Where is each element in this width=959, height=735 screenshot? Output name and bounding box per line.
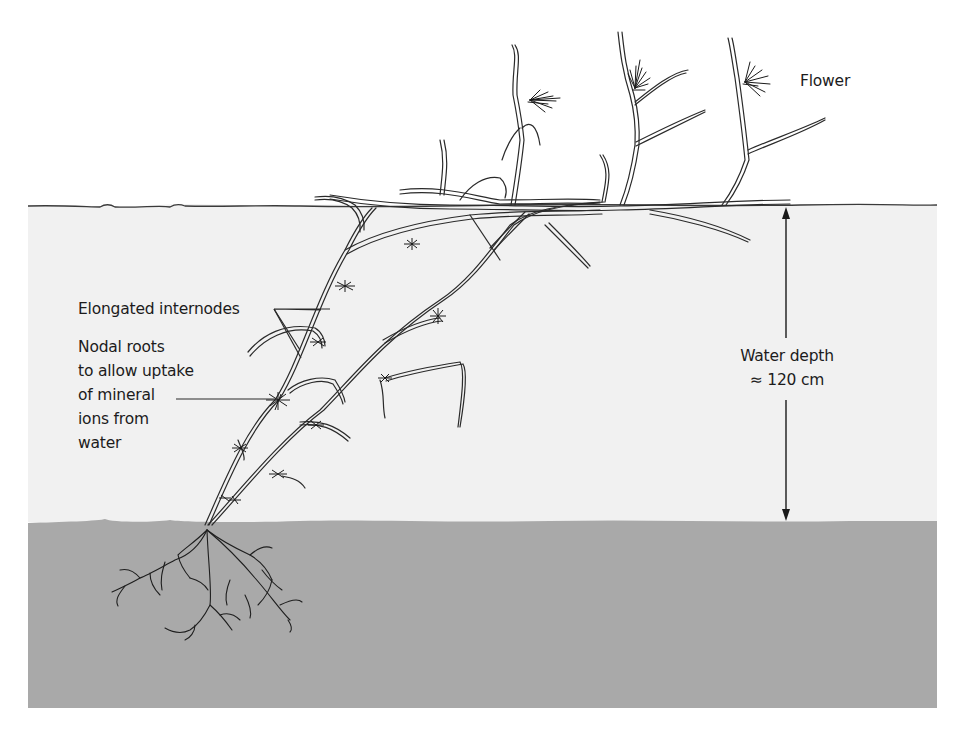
internodes-label: Elongated internodes xyxy=(78,297,240,321)
flower-1 xyxy=(528,90,560,112)
flower-label: Flower xyxy=(800,69,850,93)
water-depth-label: Water depth ≈ 120 cm xyxy=(722,344,852,392)
water-depth-line2: ≈ 120 cm xyxy=(722,368,852,392)
nodal-roots-line1: Nodal roots xyxy=(78,335,194,359)
nodal-roots-line5: water xyxy=(78,431,194,455)
nodal-roots-label: Nodal roots to allow uptake of mineral i… xyxy=(78,335,194,455)
sediment-region xyxy=(28,519,937,708)
water-depth-line1: Water depth xyxy=(722,344,852,368)
nodal-roots-line4: ions from xyxy=(78,407,194,431)
flower-3 xyxy=(743,62,770,96)
emergent-shoots xyxy=(440,32,825,205)
nodal-roots-line3: of mineral xyxy=(78,383,194,407)
nodal-roots-line2: to allow uptake xyxy=(78,359,194,383)
